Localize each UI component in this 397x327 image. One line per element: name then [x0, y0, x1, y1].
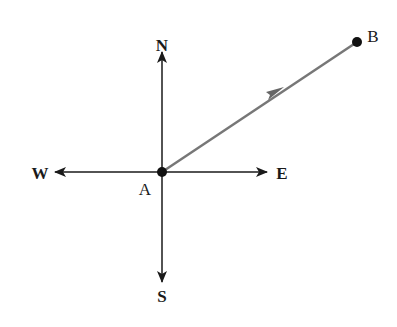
east-label: E — [276, 164, 287, 183]
north-label: N — [156, 36, 169, 55]
point-b-label: B — [367, 27, 378, 46]
south-label: S — [157, 287, 166, 306]
vector-ab — [162, 42, 357, 172]
point-a-dot — [157, 167, 167, 177]
point-b-dot — [352, 37, 362, 47]
west-label: W — [32, 164, 49, 183]
point-a-label: A — [139, 180, 152, 199]
compass-vector-diagram: N S W E A B — [0, 0, 397, 327]
